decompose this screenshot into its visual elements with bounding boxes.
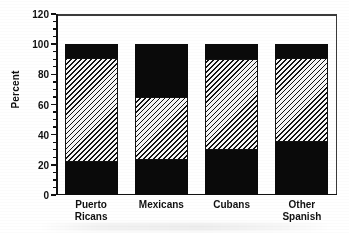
y-tick-minor: [53, 187, 56, 188]
y-tick-label: 0: [43, 190, 49, 201]
y-tick-minor: [53, 28, 56, 29]
y-axis-title: Percent: [10, 55, 21, 125]
x-axis-category-label: Puerto Ricans: [56, 199, 126, 222]
stacked-bar[interactable]: [205, 44, 258, 195]
y-tick-minor: [53, 36, 56, 37]
y-tick-minor: [53, 126, 56, 127]
y-tick-label: 40: [38, 129, 49, 140]
bar-segment-middle-segment[interactable]: [205, 59, 258, 150]
plot-area: 020406080100120: [56, 14, 337, 195]
y-tick-minor: [53, 142, 56, 143]
bar-segment-middle-segment[interactable]: [275, 58, 328, 142]
y-tick-major: [51, 134, 56, 136]
y-tick-major: [51, 104, 56, 106]
y-tick-major: [51, 43, 56, 45]
y-tick-label: 120: [32, 9, 49, 20]
bar-segment-middle-segment[interactable]: [135, 97, 188, 160]
y-tick-minor: [53, 81, 56, 82]
stacked-bar[interactable]: [275, 44, 328, 195]
bar-segment-top-segment[interactable]: [135, 44, 188, 97]
y-tick-minor: [53, 179, 56, 180]
stacked-bar[interactable]: [65, 44, 118, 195]
y-tick-major: [51, 74, 56, 76]
x-axis-category-label: Other Spanish: [267, 199, 337, 222]
y-tick-minor: [53, 149, 56, 150]
bar-segment-bottom-segment[interactable]: [65, 162, 118, 195]
y-tick-minor: [53, 111, 56, 112]
bar-segment-middle-segment[interactable]: [65, 58, 118, 162]
bar-segment-top-segment[interactable]: [275, 44, 328, 58]
x-axis-category-label: Mexicans: [126, 199, 196, 211]
y-tick-label: 60: [38, 99, 49, 110]
y-tick-minor: [53, 89, 56, 90]
y-tick-minor: [53, 172, 56, 173]
stacked-bar[interactable]: [135, 44, 188, 195]
bar-segment-bottom-segment[interactable]: [135, 160, 188, 195]
y-tick-major: [51, 13, 56, 15]
y-tick-minor: [53, 96, 56, 97]
y-tick-label: 20: [38, 159, 49, 170]
y-tick-minor: [53, 51, 56, 52]
y-tick-minor: [53, 157, 56, 158]
bar-segment-top-segment[interactable]: [65, 44, 118, 58]
y-tick-major: [51, 194, 56, 196]
y-tick-minor: [53, 119, 56, 120]
y-tick-minor: [53, 66, 56, 67]
y-tick-minor: [53, 59, 56, 60]
plot-frame-right: [336, 14, 338, 195]
bar-segment-bottom-segment[interactable]: [205, 150, 258, 195]
bar-segment-bottom-segment[interactable]: [275, 142, 328, 195]
plot-frame-top: [56, 14, 337, 16]
y-tick-label: 100: [32, 39, 49, 50]
y-tick-label: 80: [38, 69, 49, 80]
x-axis-category-label: Cubans: [197, 199, 267, 211]
bar-segment-top-segment[interactable]: [205, 44, 258, 59]
scan-smudge-overlay: [40, 223, 330, 231]
y-tick-major: [51, 164, 56, 166]
chart-figure: Percent 020406080100120 Puerto RicansMex…: [0, 0, 349, 233]
y-tick-minor: [53, 21, 56, 22]
y-axis-line: [56, 14, 58, 195]
